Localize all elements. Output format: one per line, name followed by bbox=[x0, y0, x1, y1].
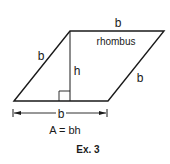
rhombus-diagram: b rhombus b h b b A = bh Ex. 3 bbox=[0, 0, 170, 164]
rhombus-shape bbox=[14, 31, 164, 101]
area-formula: A = bh bbox=[49, 124, 81, 136]
right-angle-marker bbox=[59, 91, 70, 101]
base-dimension-label: b bbox=[58, 107, 65, 121]
example-caption: Ex. 3 bbox=[76, 144, 100, 155]
right-side-label: b bbox=[137, 71, 144, 85]
arrow-right-icon bbox=[99, 111, 106, 115]
height-label: h bbox=[74, 64, 81, 78]
left-side-label: b bbox=[38, 49, 45, 63]
shape-name-label: rhombus bbox=[97, 36, 136, 47]
top-side-label: b bbox=[115, 16, 122, 30]
arrow-left-icon bbox=[14, 111, 21, 115]
